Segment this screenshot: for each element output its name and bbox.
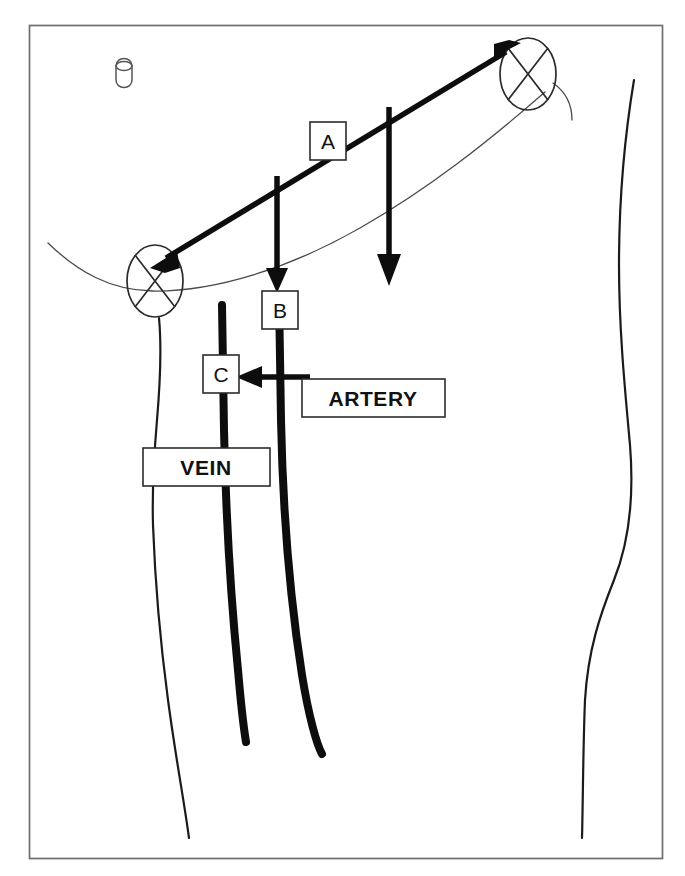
- label-box-b[interactable]: B: [262, 291, 298, 329]
- label-box-a[interactable]: A: [310, 122, 346, 160]
- label-artery-text: ARTERY: [328, 387, 417, 410]
- label-box-c[interactable]: C: [203, 355, 239, 393]
- figure-root: A B C ARTERY VEIN: [0, 0, 685, 876]
- label-box-vein[interactable]: VEIN: [143, 448, 270, 486]
- anatomy-diagram-svg: A B C ARTERY VEIN: [0, 0, 685, 876]
- label-vein-text: VEIN: [180, 456, 231, 479]
- label-a-text: A: [321, 130, 335, 153]
- label-b-text: B: [273, 299, 287, 322]
- label-c-text: C: [213, 363, 228, 386]
- label-box-artery[interactable]: ARTERY: [302, 379, 445, 417]
